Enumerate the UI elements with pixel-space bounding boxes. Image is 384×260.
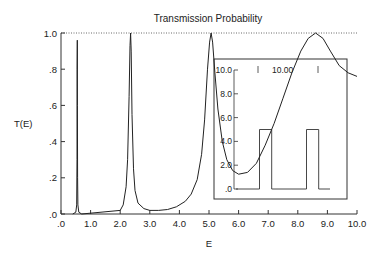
- x-tick-label: 6.0: [232, 218, 245, 229]
- x-tick-label: 10.0: [348, 218, 367, 229]
- x-tick-label: 3.0: [143, 218, 156, 229]
- inset-y-tick-label: 8.0: [220, 89, 232, 99]
- inset-y-tick-label: .0: [225, 184, 232, 194]
- inset-y-tick-label: 6.0: [220, 113, 232, 123]
- x-tick-label: 4.0: [173, 218, 186, 229]
- x-tick-label: 2.0: [114, 218, 127, 229]
- x-tick-label: 8.0: [291, 218, 304, 229]
- x-ticks: .01.02.03.04.05.06.07.08.09.010.0: [57, 210, 366, 229]
- x-tick-label: 5.0: [202, 218, 215, 229]
- x-tick-label: 1.0: [84, 218, 97, 229]
- y-tick-label: .2: [49, 172, 57, 183]
- y-ticks: .0.2.4.6.81.0: [44, 28, 65, 220]
- inset-y-tick-label: 10.0: [215, 65, 232, 75]
- inset-top-label: 10.00: [272, 65, 294, 75]
- y-axis-label: T(E): [14, 118, 32, 129]
- y-tick-label: .8: [49, 64, 57, 75]
- x-axis-label: E: [206, 238, 212, 249]
- chart-title: Transmission Probability: [154, 13, 263, 24]
- transmission-chart: Transmission Probability .0.2.4.6.81.0 .…: [0, 0, 384, 260]
- x-tick-label: 9.0: [321, 218, 334, 229]
- y-tick-label: .4: [49, 136, 57, 147]
- y-tick-label: .6: [49, 100, 57, 111]
- y-tick-label: .0: [49, 209, 57, 220]
- x-tick-label: 7.0: [262, 218, 275, 229]
- inset-y-tick-label: 2.0: [220, 160, 232, 170]
- x-tick-label: .0: [57, 218, 65, 229]
- y-tick-label: 1.0: [44, 28, 57, 39]
